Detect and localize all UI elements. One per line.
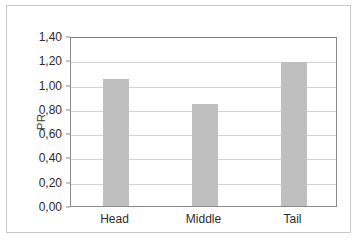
x-axis-tick-labels: HeadMiddleTail bbox=[70, 212, 337, 236]
bar bbox=[192, 104, 218, 206]
x-tick-label: Head bbox=[100, 212, 129, 226]
y-tick-label: 1,20 bbox=[39, 54, 62, 68]
y-tick-label: 1,00 bbox=[39, 79, 62, 93]
x-tick-label: Tail bbox=[283, 212, 301, 226]
bar-series bbox=[71, 38, 336, 206]
y-tick-label: 0,60 bbox=[39, 127, 62, 141]
y-tick-label: 0,00 bbox=[39, 200, 62, 214]
y-axis-tick-labels: 0,000,200,400,600,801,001,201,40 bbox=[7, 6, 70, 241]
y-tick-label: 1,40 bbox=[39, 30, 62, 44]
bar bbox=[103, 79, 129, 207]
y-tick-label: 0,80 bbox=[39, 103, 62, 117]
plot-area bbox=[70, 37, 337, 207]
y-tick-label: 0,40 bbox=[39, 151, 62, 165]
y-tick-label: 0,20 bbox=[39, 176, 62, 190]
x-tick-label: Middle bbox=[186, 212, 221, 226]
chart-figure: PR 0,000,200,400,600,801,001,201,40 Head… bbox=[6, 5, 351, 233]
bar bbox=[281, 62, 307, 207]
